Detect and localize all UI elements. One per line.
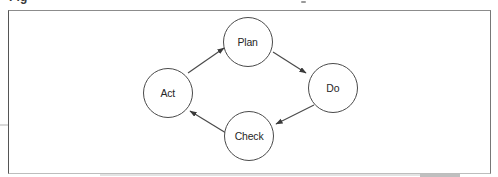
edge-plan-to-do [273,52,306,73]
node-check-label: Check [235,130,264,142]
node-act-label: Act [161,87,176,99]
node-plan: Plan [223,17,273,67]
page: Fig Plan Do Check Act [0,0,498,177]
edge-do-to-check [276,105,314,124]
node-do: Do [308,63,358,113]
node-check: Check [224,111,274,161]
edge-check-to-act [190,111,226,133]
edge-act-to-plan [188,48,224,73]
scan-artifact [420,174,460,177]
node-do-label: Do [326,82,339,94]
node-plan-label: Plan [238,36,258,48]
node-act: Act [143,68,193,118]
scan-artifact [0,124,8,126]
scan-artifact [100,174,430,176]
